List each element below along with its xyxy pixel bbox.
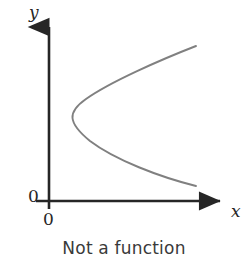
y-axis-label: y	[29, 4, 39, 21]
figure-container: y x 0 0 Not a function	[0, 0, 248, 264]
y-axis-origin-label: 0	[28, 188, 39, 205]
figure-caption: Not a function	[0, 238, 248, 258]
x-axis-origin-label: 0	[43, 211, 54, 228]
x-axis-label: x	[231, 203, 241, 220]
parabola-curve	[72, 46, 196, 186]
plot-canvas	[0, 0, 248, 264]
